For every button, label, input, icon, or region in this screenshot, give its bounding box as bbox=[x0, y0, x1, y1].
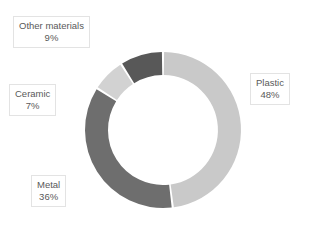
callout-ceramic: Ceramic 7% bbox=[9, 84, 56, 116]
leader-line-metal bbox=[88, 178, 104, 186]
donut-chart: Other materials 9% Ceramic 7% Metal 36% … bbox=[0, 0, 311, 236]
callout-plastic-percent: 48% bbox=[256, 89, 284, 101]
callout-metal-percent: 36% bbox=[37, 191, 60, 203]
callout-ceramic-category: Ceramic bbox=[15, 88, 50, 100]
donut-slice-metal bbox=[85, 89, 172, 208]
callout-metal: Metal 36% bbox=[31, 175, 66, 207]
donut-slices bbox=[85, 52, 241, 208]
callout-other-materials-percent: 9% bbox=[19, 32, 84, 44]
callout-ceramic-percent: 7% bbox=[15, 100, 50, 112]
callout-plastic-category: Plastic bbox=[256, 77, 284, 89]
callout-other-materials-category: Other materials bbox=[19, 20, 84, 32]
callout-metal-category: Metal bbox=[37, 179, 60, 191]
donut-slice-plastic bbox=[164, 52, 241, 207]
callout-plastic: Plastic 48% bbox=[250, 73, 290, 105]
callout-other-materials: Other materials 9% bbox=[13, 16, 90, 48]
leader-line-other-materials bbox=[116, 44, 141, 55]
